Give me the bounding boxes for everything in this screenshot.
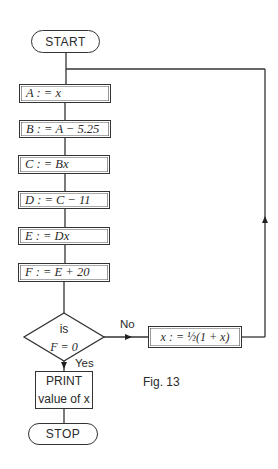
step-f-box: F : = E + 20 <box>18 263 110 282</box>
step-c-box: C : = Bx <box>18 155 110 174</box>
no-label: No <box>120 318 135 330</box>
step-c-text: C : = Bx <box>25 157 69 172</box>
step-b-text: B : = A − 5.25 <box>26 122 99 137</box>
decision-text: is F = 0 <box>34 320 94 356</box>
arrow-right-icon <box>125 334 132 340</box>
decision-line2: F = 0 <box>34 338 94 356</box>
step-f-text: F : = E + 20 <box>25 265 89 280</box>
step-a-box: A : = x <box>19 84 111 103</box>
step-e-box: E : = Dx <box>18 227 110 245</box>
step-e-text: E : = Dx <box>25 229 69 244</box>
print-line2: value of x <box>38 390 89 408</box>
start-terminal: START <box>31 30 100 53</box>
loop-step-box: x : = ½(1 + x) <box>148 326 242 348</box>
figure-caption: Fig. 13 <box>143 375 180 389</box>
stop-label: STOP <box>46 427 80 441</box>
start-label: START <box>45 35 86 49</box>
step-d-text: D : = C − 11 <box>25 193 91 208</box>
decision-line1: is <box>34 320 94 338</box>
print-line1: PRINT <box>46 372 82 390</box>
print-box: PRINT value of x <box>35 371 93 409</box>
step-d-box: D : = C − 11 <box>18 191 110 209</box>
arrow-down-icon <box>61 362 67 369</box>
step-a-text: A : = x <box>26 86 61 101</box>
stop-terminal: STOP <box>28 423 98 445</box>
loop-step-text: x : = ½(1 + x) <box>161 330 230 345</box>
arrow-up-icon <box>262 216 268 223</box>
yes-label: Yes <box>75 357 94 369</box>
step-b-box: B : = A − 5.25 <box>19 120 111 138</box>
